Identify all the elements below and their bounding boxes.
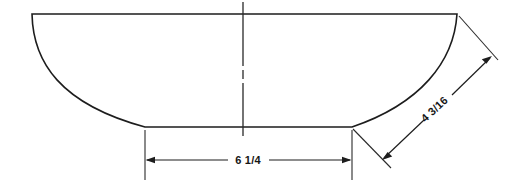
- dimension-line-chord-upper-segment: [452, 58, 490, 95]
- arrowhead-base-left: [146, 157, 156, 163]
- technical-drawing-canvas: 6 1/4 4 3/16: [0, 0, 518, 184]
- extension-line-chord-upper: [459, 16, 498, 60]
- drawing-svg: 6 1/4 4 3/16: [0, 0, 518, 184]
- dimension-base-width: 6 1/4: [145, 130, 352, 180]
- arrowhead-chord-lower: [382, 152, 392, 160]
- extension-line-chord-lower: [353, 129, 391, 168]
- bowl-outline-path: [32, 14, 457, 127]
- dimension-line-chord-lower-segment: [384, 120, 424, 158]
- arrowhead-chord-upper: [482, 56, 492, 64]
- dimension-label-base-width: 6 1/4: [235, 154, 261, 166]
- dimension-label-sidewall-chord: 4 3/16: [419, 94, 450, 124]
- arrowhead-base-right: [342, 157, 352, 163]
